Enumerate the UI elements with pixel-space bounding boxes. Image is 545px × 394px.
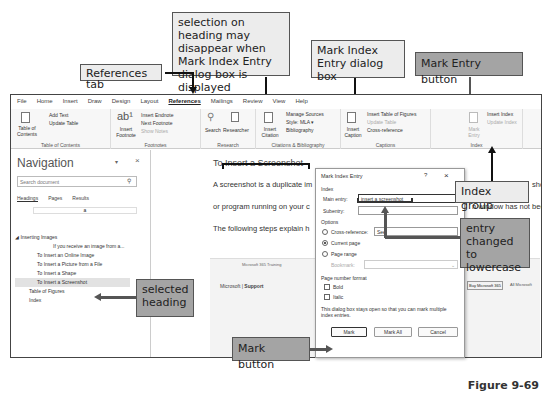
table-of-contents-button[interactable]: Table of Contents [15, 125, 39, 137]
heading-item[interactable]: ◢ Inserting Images [15, 233, 130, 242]
menubar: File Home Insert Draw Design Layout Refe… [11, 95, 541, 108]
captions-group: Insert Caption Insert Table of Figures U… [341, 109, 431, 149]
heading-list: ◢ Inserting Images If you receive an ima… [15, 233, 130, 305]
menu-insert[interactable]: Insert [63, 98, 78, 108]
menu-file[interactable]: File [17, 98, 27, 108]
insert-citation-button[interactable]: Insert Citation [259, 126, 281, 138]
update-index-button[interactable]: Update Index [487, 119, 517, 125]
ribbon: Table of Contents Add Text Update Table … [11, 109, 541, 149]
page-number-format-label: Page number format [321, 275, 367, 281]
nav-tabs: Headings Pages Results [17, 195, 89, 202]
insert-footnote-button[interactable]: Insert Footnote [116, 126, 136, 138]
menu-review[interactable]: Review [243, 98, 263, 108]
update-table-figures-button[interactable]: Update Table [367, 119, 396, 125]
next-footnote-button[interactable]: Next Footnote [141, 120, 172, 126]
show-notes-button[interactable]: Show Notes [141, 128, 168, 134]
close-icon[interactable]: × [444, 171, 449, 180]
current-page-label: Current page [331, 240, 360, 246]
dialog-note: This dialog box stays open so that you c… [321, 306, 459, 318]
bold-checkbox[interactable] [324, 284, 330, 290]
selection-note-callout: selection on heading may disappear when … [172, 12, 290, 76]
current-page-radio[interactable] [322, 240, 328, 246]
browser-tab: Microsoft 365 Training [242, 262, 281, 267]
footnote-ab-icon: ab¹ [117, 110, 133, 122]
dialog-title: Mark Index Entry [321, 173, 363, 179]
researcher-icon [231, 112, 239, 122]
tab-results[interactable]: Results [72, 195, 89, 202]
bibliography-button[interactable]: Bibliography [286, 127, 314, 133]
entry-bracket [357, 198, 413, 203]
manage-sources-button[interactable]: Manage Sources [286, 111, 324, 117]
menu-view[interactable]: View [272, 98, 285, 108]
index-group: Mark Entry Insert Index Update Index Ind… [431, 109, 523, 149]
nav-close-icon[interactable]: × [135, 156, 140, 165]
style-dropdown[interactable]: Style: MLA ▾ [286, 119, 314, 125]
tab-headings[interactable]: Headings [17, 195, 38, 202]
search-button[interactable]: Search [205, 127, 221, 133]
subentry-label: Subentry: [323, 208, 344, 214]
index-label: Index [321, 186, 333, 192]
italic-label: Italic [333, 294, 343, 300]
mark-index-entry-dialog: Mark Index Entry ? × Index Main entry: i… [315, 168, 465, 358]
footnotes-group-label: Footnotes [111, 142, 200, 148]
cross-reference-label: Cross-reference: [331, 229, 368, 235]
browser-all: All Microsoft [510, 282, 532, 287]
chevron-down-icon: ⌄ [451, 262, 455, 268]
citation-icon [264, 112, 273, 123]
document-line: The following steps explain h [213, 224, 309, 233]
selected-heading-callout: selected heading [136, 279, 194, 317]
menu-layout[interactable]: Layout [140, 98, 158, 108]
mark-button-callout: Mark button [232, 337, 310, 361]
toc-group-label: Table of Contents [11, 142, 110, 148]
heading-item[interactable]: To Insert a Picture from a File [15, 260, 130, 269]
heading-item-selected[interactable]: To Insert a Screenshot [15, 278, 130, 287]
research-group-label: Research [201, 142, 255, 148]
subentry-input[interactable] [358, 206, 458, 215]
menu-help[interactable]: Help [295, 98, 307, 108]
citations-group-label: Citations & Bibliography [256, 142, 340, 148]
nav-options-icon[interactable]: ▾ [115, 158, 118, 165]
add-text-button[interactable]: Add Text [49, 112, 68, 118]
insert-table-of-figures-button[interactable]: Insert Table of Figures [367, 111, 416, 117]
heading-item[interactable]: If you receive an image from a... [15, 242, 130, 251]
cancel-button[interactable]: Cancel [418, 327, 458, 337]
heading-item[interactable]: Table of Figures [15, 287, 130, 296]
update-table-button[interactable]: Update Table [49, 120, 78, 126]
heading-item[interactable]: To Insert a Shape [15, 269, 130, 278]
page-range-radio[interactable] [322, 251, 328, 257]
bookmark-select[interactable]: ⌄ [364, 260, 458, 269]
heading-item[interactable]: To Insert an Online Image [15, 251, 130, 260]
page-range-label: Page range [331, 251, 357, 257]
mark-all-button[interactable]: Mark All [374, 327, 412, 337]
style-label: Style: [286, 119, 299, 125]
insert-endnote-button[interactable]: Insert Endnote [141, 112, 174, 118]
mark-button[interactable]: Mark [331, 327, 367, 337]
browser-buy: Buy Microsoft 365 [467, 281, 503, 290]
cross-reference-radio[interactable] [322, 229, 328, 235]
document-line: A screenshot is a duplicate im [213, 180, 312, 189]
captions-group-label: Captions [341, 142, 430, 148]
bookmark-label: Bookmark: [331, 262, 355, 268]
menu-home[interactable]: Home [37, 98, 53, 108]
help-icon[interactable]: ? [424, 172, 427, 178]
tab-pages[interactable]: Pages [48, 195, 62, 202]
browser-brand: Microsoft | Support [220, 283, 264, 289]
footnotes-group: ab¹ Insert Footnote Insert Endnote Next … [111, 109, 201, 149]
bold-label: Bold [333, 284, 343, 290]
nav-heading-bar[interactable]: a [33, 207, 137, 214]
menu-design[interactable]: Design [112, 98, 131, 108]
nav-search-input[interactable]: Search document [17, 176, 137, 187]
insert-caption-button[interactable]: Insert Caption [344, 126, 362, 138]
search-icon[interactable]: ⚲ [127, 177, 131, 184]
researcher-button[interactable]: Researcher [223, 127, 249, 133]
cross-reference-button[interactable]: Cross-reference [367, 127, 403, 133]
menu-draw[interactable]: Draw [88, 98, 102, 108]
italic-checkbox[interactable] [324, 294, 330, 300]
index-group-label: Index [431, 142, 522, 148]
heading-bracket [222, 163, 310, 169]
research-group: ⚲ Search Researcher Research [201, 109, 256, 149]
menu-mailings[interactable]: Mailings [211, 98, 233, 108]
mark-entry-button[interactable]: Mark Entry [467, 126, 481, 138]
menu-references[interactable]: References [168, 98, 200, 108]
insert-index-button[interactable]: Insert Index [487, 111, 513, 117]
